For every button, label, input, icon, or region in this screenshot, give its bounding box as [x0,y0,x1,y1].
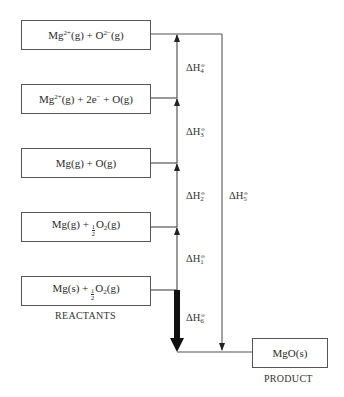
level-3-text: Mg(g) + O(g) [56,157,117,169]
level-mg2plus-o2minus: Mg2+(g) + O2−(g) [21,20,151,50]
delta-h5-label: ΔH⦵5 [229,190,247,201]
delta-h6-label: ΔH⦵6 [186,312,204,323]
delta-h4-label: ΔH⦵4 [186,62,204,73]
level-4-text: Mg(g) + 12O2(g) [52,218,120,237]
level-2-text: Mg2+(g) + 2e− + O(g) [39,93,133,105]
level-mg2plus-electrons-o: Mg2+(g) + 2e− + O(g) [21,84,151,114]
product-label: PRODUCT [264,373,313,384]
product-text: MgO(s) [273,347,308,359]
level-5-text: Mg(s) + 12O2(g) [52,282,119,301]
product-box: MgO(s) [252,338,328,368]
level-1-text: Mg2+(g) + O2−(g) [48,29,124,41]
reactants-label: REACTANTS [55,310,116,321]
level-mg-g-half-o2: Mg(g) + 12O2(g) [21,212,151,242]
delta-h1-label: ΔH⦵1 [186,253,204,264]
delta-h2-label: ΔH⦵2 [186,190,204,201]
level-reactants: Mg(s) + 12O2(g) [21,276,151,306]
delta-h3-label: ΔH⦵3 [186,126,204,137]
level-mg-g-o-g: Mg(g) + O(g) [21,148,151,178]
